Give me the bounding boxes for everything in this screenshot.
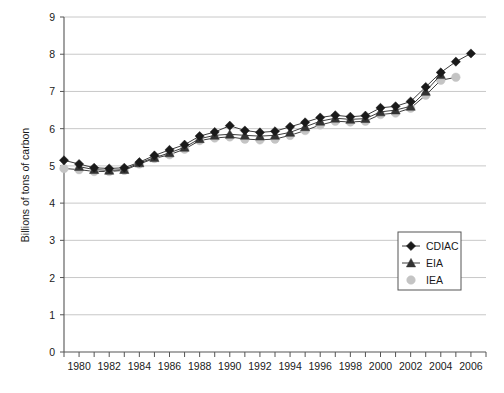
chart-background xyxy=(0,0,504,393)
data-point-iea-2005 xyxy=(452,73,461,82)
x-tick-label-2000: 2000 xyxy=(369,360,393,372)
y-axis-title: Billions of tons of carbon xyxy=(19,128,31,243)
y-tick-label-9: 9 xyxy=(49,11,55,23)
emissions-line-chart: 0123456789 19801982198419861988199019921… xyxy=(0,0,504,393)
legend-marker-iea xyxy=(407,276,416,285)
chart-page: 0123456789 19801982198419861988199019921… xyxy=(0,0,504,393)
y-tick-label-5: 5 xyxy=(49,160,55,172)
x-tick-label-1982: 1982 xyxy=(98,360,122,372)
x-tick-label-1988: 1988 xyxy=(188,360,212,372)
x-tick-label-1992: 1992 xyxy=(248,360,272,372)
x-tick-label-1996: 1996 xyxy=(309,360,333,372)
y-tick-label-8: 8 xyxy=(49,48,55,60)
x-tick-label-1990: 1990 xyxy=(218,360,242,372)
legend-item-cdiac[interactable]: CDIAC xyxy=(402,240,459,252)
chart-legend[interactable]: CDIACEIAIEA xyxy=(398,232,461,290)
data-point-iea-1979 xyxy=(60,164,69,173)
x-tick-label-1998: 1998 xyxy=(339,360,363,372)
x-tick-label-2004: 2004 xyxy=(429,360,453,372)
y-tick-label-1: 1 xyxy=(49,309,55,321)
x-tick-label-1986: 1986 xyxy=(158,360,182,372)
y-tick-label-4: 4 xyxy=(49,197,55,209)
x-tick-label-1994: 1994 xyxy=(278,360,302,372)
y-tick-label-3: 3 xyxy=(49,234,55,246)
x-tick-label-2002: 2002 xyxy=(399,360,423,372)
legend-label-cdiac: CDIAC xyxy=(426,240,459,252)
y-tick-label-2: 2 xyxy=(49,272,55,284)
legend-label-iea: IEA xyxy=(426,274,443,286)
x-tick-label-1984: 1984 xyxy=(128,360,152,372)
x-tick-label-1980: 1980 xyxy=(67,360,91,372)
legend-label-eia: EIA xyxy=(426,257,443,269)
y-tick-label-6: 6 xyxy=(49,123,55,135)
x-tick-label-2006: 2006 xyxy=(459,360,483,372)
y-tick-label-7: 7 xyxy=(49,85,55,97)
y-tick-label-0: 0 xyxy=(49,346,55,358)
